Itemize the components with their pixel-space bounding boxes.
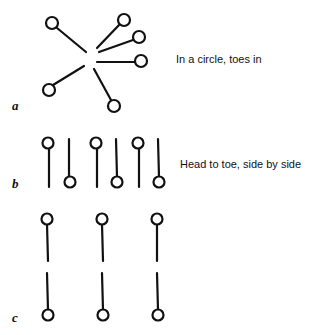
- panel-caption-a: In a circle, toes in: [176, 53, 262, 65]
- panel-b-figures: [43, 138, 165, 188]
- panel-caption-b: Head to toe, side by side: [180, 158, 301, 170]
- panel-c-figures: [42, 214, 164, 321]
- panel-a-figures: [43, 14, 147, 112]
- panel-label-b: b: [12, 176, 19, 192]
- panel-label-a: a: [12, 98, 19, 114]
- panel-label-c: c: [12, 310, 18, 326]
